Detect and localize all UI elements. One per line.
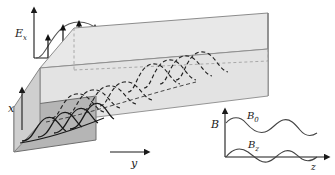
bz-curve-label: Bz — [247, 139, 259, 153]
b-inset-x-axis-label: z — [310, 162, 316, 172]
waveguide-y-axis-label: y — [130, 157, 138, 170]
bz-curve — [226, 149, 317, 162]
b-inset-y-axis-label: B — [210, 118, 219, 131]
b0-curve-label: B0 — [246, 110, 259, 124]
b0-curve — [226, 118, 317, 136]
waveguide-x-axis-label: x — [8, 102, 15, 115]
e-inset-y-axis-label: Ex — [14, 27, 27, 42]
figure-canvas: Ex y — [0, 0, 335, 175]
b-field-inset: B B0 Bz z — [210, 110, 325, 172]
waveguide-figure: Ex y — [0, 0, 335, 175]
waveguide-box: x y — [8, 13, 268, 170]
